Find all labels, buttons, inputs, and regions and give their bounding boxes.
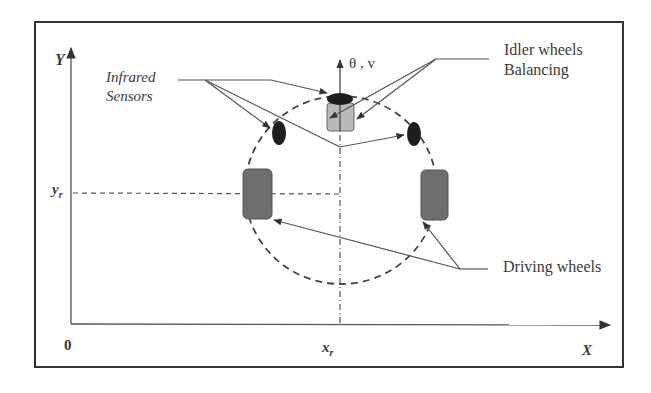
x-axis-label: X: [582, 343, 592, 358]
xr-label-sub: r: [330, 347, 334, 358]
right-driving-wheel: [421, 170, 448, 220]
x-axis: [71, 324, 610, 325]
front-infrared-sensor: [327, 93, 353, 105]
xr-label-main: x: [322, 339, 330, 355]
left-infrared-sensor: [272, 121, 286, 145]
infrared-label-line1: Infrared: [106, 70, 155, 85]
yr-label-sub: r: [59, 189, 63, 200]
right-infrared-sensor: [407, 122, 421, 146]
robot-kinematics-diagram: [0, 0, 651, 393]
yr-guide-line: [73, 193, 340, 194]
driving-leader-lines: [274, 220, 488, 269]
infrared-leader-lines: [178, 80, 404, 147]
origin-label: 0: [64, 338, 72, 353]
yr-label: yr: [52, 182, 63, 200]
heading-label: θ , v: [349, 56, 375, 71]
y-axis-label: Y: [55, 52, 65, 68]
idler-label-line2: Balancing: [504, 62, 569, 78]
infrared-label-line2: Sensors: [106, 89, 153, 104]
xr-label: xr: [322, 340, 333, 358]
idler-label-line1: Idler wheels: [504, 42, 583, 58]
driving-wheels-label: Driving wheels: [503, 259, 601, 275]
yr-label-main: y: [52, 181, 59, 197]
left-driving-wheel: [243, 169, 272, 219]
